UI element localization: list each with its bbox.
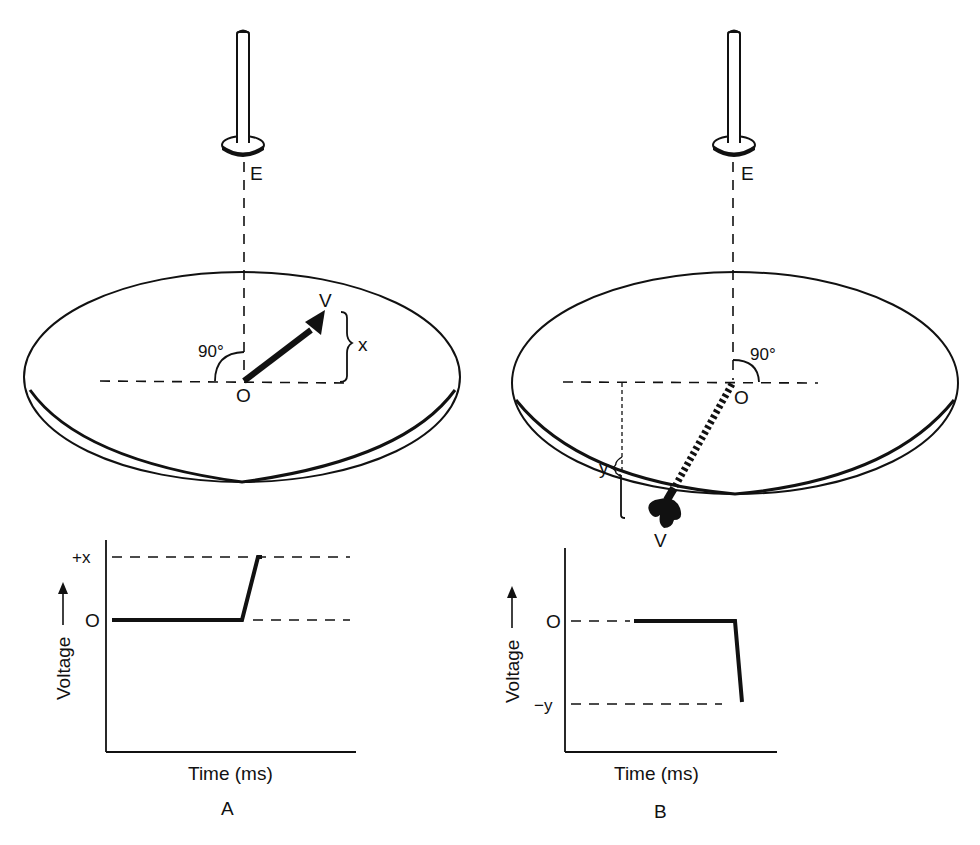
x-axis-label: Time (ms)	[188, 763, 273, 784]
vector-arrow-icon	[244, 310, 325, 381]
body-plane-ellipse	[512, 272, 958, 494]
electrode-label: E	[250, 163, 263, 184]
y-axis-label: Voltage	[53, 637, 74, 700]
component-brace	[340, 312, 352, 382]
angle-label: 90°	[750, 345, 776, 364]
vector-arrow-icon	[648, 384, 732, 528]
arrow-up-icon	[58, 582, 68, 625]
body-plane-ellipse	[24, 272, 460, 482]
tick-label-zero: O	[85, 610, 100, 631]
tick-label-zero: O	[546, 611, 561, 632]
voltage-graph-a: +x O Voltage Time (ms)	[53, 540, 356, 784]
dipole-vector-figure: E 90° V x O +x O	[0, 0, 980, 845]
component-label: x	[358, 334, 368, 355]
y-axis-label: Voltage	[502, 640, 523, 703]
horizontal-axis-line	[100, 381, 346, 383]
panel-b: E 90° O V y O −y	[502, 31, 958, 823]
origin-label: O	[734, 387, 749, 408]
component-label: y	[599, 457, 609, 478]
vector-label: V	[654, 530, 667, 551]
x-axis-label: Time (ms)	[614, 763, 699, 784]
vector-label: V	[319, 290, 332, 311]
component-brace	[621, 475, 625, 518]
angle-label: 90°	[198, 342, 224, 361]
electrode-icon	[713, 31, 755, 158]
horizontal-axis-line	[563, 382, 818, 383]
tick-label-minus-y: −y	[534, 696, 553, 715]
electrode-label: E	[741, 163, 754, 184]
arrow-up-icon	[507, 586, 517, 628]
panel-a: E 90° V x O +x O	[24, 31, 460, 820]
tick-label-plus-x: +x	[72, 548, 91, 567]
panel-caption: B	[654, 801, 667, 822]
electrode-icon	[222, 31, 264, 158]
panel-caption: A	[221, 798, 234, 819]
origin-label: O	[236, 385, 251, 406]
voltage-graph-b: O −y Voltage Time (ms)	[502, 548, 777, 784]
